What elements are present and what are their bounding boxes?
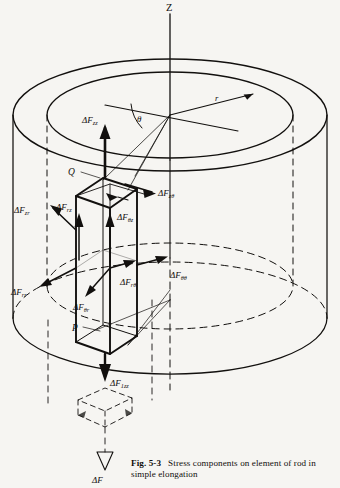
label-point-p: P	[71, 323, 78, 333]
label-z-axis: Z	[166, 2, 172, 13]
label-theta: θ	[137, 114, 142, 124]
figure-stress-components: Z r θ Q P ΔFzz ΔFzθ ΔFzr ΔFrz ΔFθz ΔFrr …	[0, 0, 340, 488]
caption-line-1: Stress components on element	[168, 458, 281, 468]
label-point-q: Q	[68, 167, 75, 177]
figure-drawing: Z r θ Q P ΔFzz ΔFzθ ΔFzr ΔFrz ΔFθz ΔFrr …	[0, 0, 340, 488]
figure-number: Fig. 5-3	[131, 458, 161, 468]
figure-caption: Fig. 5-3Stress components on element of …	[131, 458, 340, 479]
label-force-resultant: ΔF	[91, 475, 103, 485]
